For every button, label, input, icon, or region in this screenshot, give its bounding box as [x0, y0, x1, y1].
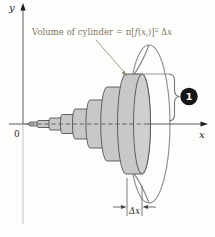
origin-label: 0	[14, 129, 20, 139]
y-axis-arrowhead-icon	[20, 3, 25, 11]
x-axis-arrowhead-icon	[201, 121, 209, 126]
formula-lead: Volume of cylinder	[32, 27, 113, 37]
y-axis-label: y	[8, 2, 15, 13]
dx-marker-label: Δx	[128, 206, 140, 216]
figure-stage: 1 Δx y x 0 Volume of cylinder = π[f(xi)]…	[0, 0, 215, 237]
x-axis-label: x	[199, 129, 205, 140]
dx-left-arrowhead-icon	[121, 205, 127, 209]
formula-dx: x	[167, 27, 172, 37]
radius-brace	[169, 74, 180, 121]
step-badge-label: 1	[186, 91, 193, 102]
dx-right-arrowhead-icon	[143, 205, 149, 209]
formula-leader-line	[96, 40, 125, 73]
volume-formula-annotation: Volume of cylinder = π[f(xi)]2 Δx	[32, 27, 172, 37]
